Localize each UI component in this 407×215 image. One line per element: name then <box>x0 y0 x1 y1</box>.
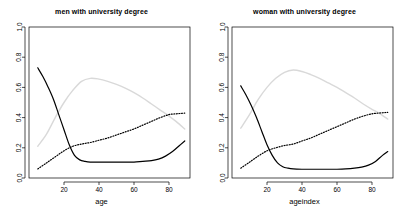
chart-panel-men: men with university degree 0.00.20.40.60… <box>0 0 203 215</box>
x-tick-label: 80 <box>368 186 376 193</box>
x-axis-label-men: age <box>0 197 203 206</box>
x-tick-label: 40 <box>298 186 306 193</box>
plot-area-men: 0.00.20.40.60.81.020406080 <box>0 0 203 215</box>
y-tick-label: 0.8 <box>16 52 23 61</box>
x-tick-label: 20 <box>263 186 271 193</box>
y-tick-label: 0.6 <box>219 83 226 92</box>
x-tick-label: 60 <box>130 186 138 193</box>
y-tick-label: 0.4 <box>16 113 23 122</box>
x-tick-label: 40 <box>95 186 103 193</box>
series-light-gray-curve <box>38 78 185 146</box>
series-dotted-black-curve <box>241 112 388 168</box>
x-tick-label: 20 <box>60 186 68 193</box>
series-solid-black-curve <box>241 86 388 169</box>
chart-panel-woman: woman with university degree 0.00.20.40.… <box>203 0 406 215</box>
figure-canvas: men with university degree 0.00.20.40.60… <box>0 0 407 215</box>
y-tick-label: 0.2 <box>16 143 23 152</box>
y-tick-label: 1.0 <box>219 22 226 31</box>
series-light-gray-curve <box>241 70 388 128</box>
x-tick-label: 80 <box>165 186 173 193</box>
y-tick-label: 0.0 <box>219 173 226 182</box>
y-tick-label: 1.0 <box>16 22 23 31</box>
y-tick-label: 0.2 <box>219 143 226 152</box>
series-dotted-black-curve <box>38 113 185 169</box>
y-tick-label: 0.6 <box>16 83 23 92</box>
y-tick-label: 0.4 <box>219 113 226 122</box>
x-axis-label-woman: ageindex <box>203 197 406 206</box>
plot-area-woman: 0.00.20.40.60.81.020406080 <box>203 0 406 215</box>
y-tick-label: 0.0 <box>16 173 23 182</box>
x-tick-label: 60 <box>333 186 341 193</box>
y-tick-label: 0.8 <box>219 52 226 61</box>
